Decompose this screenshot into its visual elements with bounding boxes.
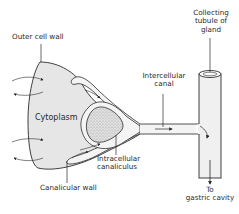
- label-outer-cell-wall: Outer cell wall: [12, 33, 64, 41]
- label-to-gastric-cavity: To gastric cavity: [172, 186, 239, 203]
- label-to-gastric-cavity-line2: gastric cavity: [172, 194, 239, 202]
- diagram-canvas: Outer cell wall Collecting tubule of gla…: [0, 0, 239, 214]
- label-intercellular-canal: Intercellular canal: [136, 72, 192, 89]
- label-canalicular-wall: Canalicular wall: [40, 184, 97, 192]
- label-intercellular-canal-line2: canal: [136, 80, 192, 88]
- label-collecting-tubule: Collecting tubule of gland: [186, 9, 236, 34]
- label-intracellular-canaliculus-line2: canaliculus: [97, 163, 140, 171]
- label-cytoplasm: Cytoplasm: [35, 114, 78, 122]
- label-intracellular-canaliculus: Intracellular canaliculus: [97, 155, 140, 172]
- label-collecting-tubule-line3: gland: [186, 26, 236, 34]
